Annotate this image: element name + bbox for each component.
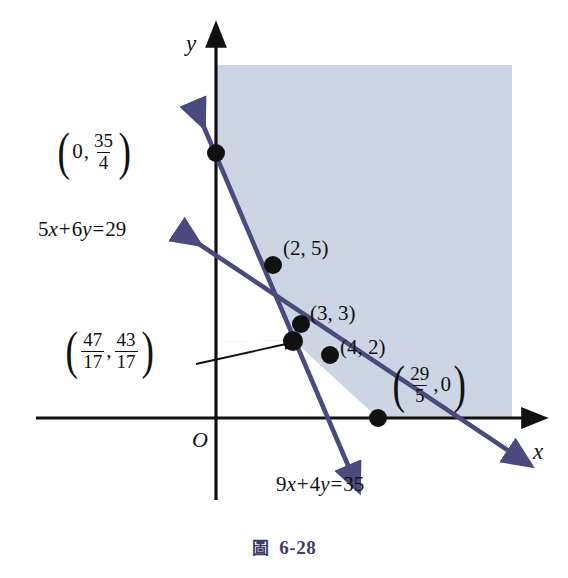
paren-open-icon: ( (392, 364, 404, 406)
y-intercept-label: ( 0 , 35 4 ) (55, 131, 133, 173)
fraction-43-17: 43 17 (115, 330, 138, 372)
coefficient-b: 4 (310, 474, 321, 495)
equation-label-9x-4y-35: 9x + 4y = 35 (276, 474, 364, 495)
fraction-numerator: 47 (81, 330, 104, 350)
point-x-intercept (369, 409, 387, 427)
coefficient-b: 6 (72, 219, 83, 240)
paren-open-icon: ( (65, 330, 77, 372)
figure-caption: 圖6-28 (0, 534, 568, 559)
comma-separator: , (83, 141, 91, 162)
right-hand-side: 29 (105, 219, 126, 240)
paren-close-icon: ) (119, 131, 131, 173)
point-intersection (283, 331, 303, 351)
point-2-5 (264, 256, 282, 274)
fraction-denominator: 17 (115, 351, 138, 372)
point-label-2-5: (2, 5) (283, 238, 329, 259)
paren-open-icon: ( (57, 131, 69, 173)
paren-close-icon: ) (141, 330, 153, 372)
point-4-2 (321, 346, 339, 364)
point-y-intercept (207, 144, 225, 162)
equals-operator: = (330, 474, 344, 495)
figure-container: y x O ( 0 , 35 4 ) 5x + 6y = 29 9x + 4y (0, 0, 568, 578)
figure-caption-symbol: 圖 (252, 538, 270, 558)
fraction-denominator: 4 (97, 152, 111, 173)
point-3-3 (292, 315, 310, 333)
coefficient-a: 5 (38, 219, 49, 240)
right-hand-side: 35 (343, 474, 364, 495)
y-axis-label: y (186, 32, 196, 55)
fraction-denominator: 17 (81, 351, 104, 372)
y-intercept-x-value: 0 (72, 141, 83, 162)
x-axis-label: x (533, 440, 543, 463)
point-label-3-3: (3, 3) (310, 303, 356, 324)
plus-operator: + (58, 219, 72, 240)
x-intercept-label: ( 29 5 , 0 ) (390, 364, 468, 406)
coefficient-a: 9 (276, 474, 287, 495)
fraction-47-17: 47 17 (81, 330, 104, 372)
equation-label-5x-6y-29: 5x + 6y = 29 (38, 219, 126, 240)
figure-caption-number: 6-28 (279, 537, 316, 558)
origin-label: O (192, 429, 208, 451)
variable-y: y (82, 219, 91, 240)
equals-operator: = (92, 219, 106, 240)
fraction-denominator: 5 (413, 385, 427, 406)
variable-x: x (287, 474, 296, 495)
x-intercept-y-value: 0 (441, 374, 452, 395)
variable-y: y (320, 474, 329, 495)
fraction-numerator: 29 (408, 364, 431, 384)
comma-separator: , (432, 374, 440, 395)
intersection-label: ( 47 17 , 43 17 ) (63, 330, 156, 372)
fraction-35-4: 35 4 (92, 131, 115, 173)
fraction-numerator: 35 (92, 131, 115, 151)
point-label-4-2: (4, 2) (340, 337, 386, 358)
fraction-numerator: 43 (115, 330, 138, 350)
paren-close-icon: ) (454, 364, 466, 406)
variable-x: x (49, 219, 58, 240)
comma-separator: , (105, 340, 113, 361)
fraction-29-5: 29 5 (408, 364, 431, 406)
plus-operator: + (296, 474, 310, 495)
